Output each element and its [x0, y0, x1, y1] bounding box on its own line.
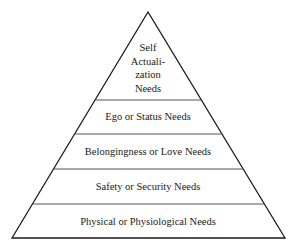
- level-self-actualization-line-2: Actuali-: [131, 55, 165, 69]
- level-self-actualization-line-3: zation: [131, 68, 165, 82]
- level-belongingness-love: Belongingness or Love Needs: [85, 145, 211, 159]
- pyramid-diagram: [0, 0, 295, 250]
- level-self-actualization-line-1: Self: [131, 41, 165, 55]
- level-self-actualization-line-4: Needs: [131, 82, 165, 96]
- level-physical-physiological: Physical or Physiological Needs: [80, 215, 216, 229]
- level-ego-status: Ego or Status Needs: [105, 110, 190, 124]
- level-self-actualization: Self Actuali- zation Needs: [131, 41, 165, 95]
- level-safety-security: Safety or Security Needs: [96, 180, 201, 194]
